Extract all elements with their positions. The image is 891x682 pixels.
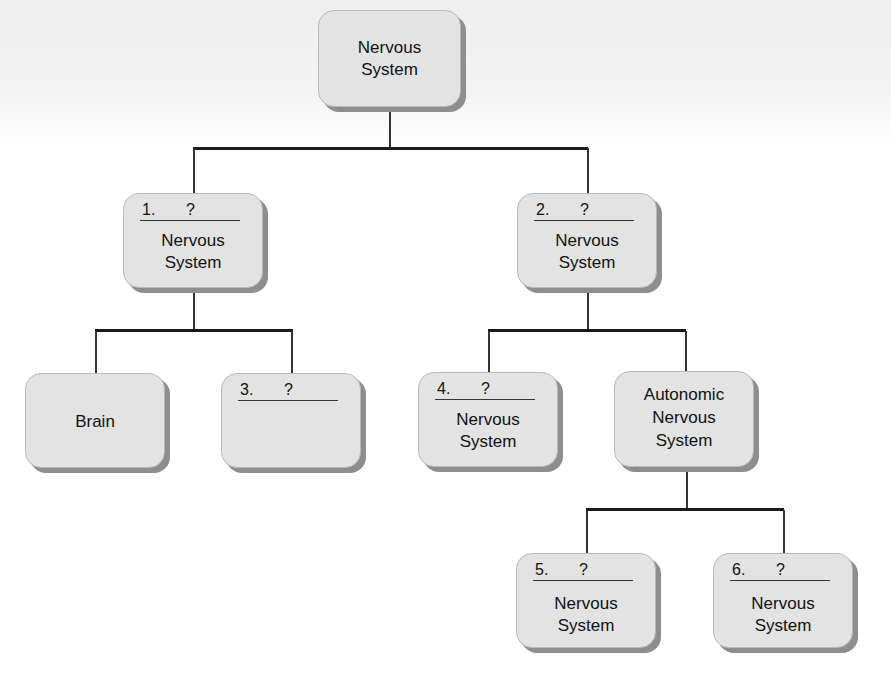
node-label: Brain [26, 411, 164, 432]
connector-to-autonomic [685, 331, 687, 372]
node-4: 4.? Nervous System [418, 372, 558, 467]
connector-level1-bar [193, 147, 588, 150]
connector-to-brain [95, 331, 97, 374]
connector-node1-down [193, 290, 195, 331]
node-3: 3.? [221, 373, 361, 468]
blank-answer-line: 1.? [140, 200, 240, 221]
node-2: 2.? Nervous System [517, 193, 657, 288]
node-1: 1.? Nervous System [123, 193, 263, 288]
blank-answer-line: 2.? [534, 200, 634, 221]
question-mark: ? [776, 561, 785, 578]
node-label: Nervous [319, 37, 460, 58]
connector-to-node6 [783, 510, 785, 553]
question-mark: ? [580, 201, 589, 218]
node-label: Nervous [518, 230, 656, 251]
question-mark: ? [284, 381, 293, 398]
connector-to-node2 [587, 148, 589, 194]
node-label: System [714, 615, 852, 636]
connector-level2-left-bar [95, 329, 293, 332]
node-brain: Brain [25, 373, 165, 468]
question-number: 1. [140, 200, 186, 220]
question-number: 2. [534, 200, 580, 220]
node-label: System [419, 431, 557, 452]
connector-level2-right-bar [488, 329, 686, 332]
node-label: Autonomic [615, 384, 753, 405]
blank-answer-line: 6.? [730, 560, 830, 581]
blank-answer-line: 5.? [533, 560, 633, 581]
node-label: Nervous [615, 407, 753, 428]
connector-root-down [389, 107, 391, 149]
node-label: System [124, 252, 262, 273]
node-label: Nervous [419, 409, 557, 430]
node-label: Nervous [517, 593, 655, 614]
node-autonomic-nervous-system: Autonomic Nervous System [614, 371, 754, 467]
connector-to-node5 [586, 510, 588, 553]
question-number: 4. [435, 379, 481, 399]
node-root-nervous-system: Nervous System [318, 10, 461, 107]
node-label: Nervous [714, 593, 852, 614]
connector-node2-down [587, 290, 589, 331]
question-mark: ? [579, 561, 588, 578]
node-label: Nervous [124, 230, 262, 251]
connector-to-node1 [193, 148, 195, 194]
question-mark: ? [481, 380, 490, 397]
question-number: 6. [730, 560, 776, 580]
blank-answer-line: 3.? [238, 380, 338, 401]
node-label: System [319, 59, 460, 80]
connector-level3-bar [586, 508, 784, 511]
question-number: 3. [238, 380, 284, 400]
question-number: 5. [533, 560, 579, 580]
blank-answer-line: 4.? [435, 379, 535, 400]
connector-to-node3 [291, 331, 293, 374]
connector-autonomic-down [686, 467, 688, 510]
node-6: 6.? Nervous System [713, 553, 853, 648]
node-label: System [615, 430, 753, 451]
node-label: System [518, 252, 656, 273]
connector-to-node4 [488, 331, 490, 373]
node-label: System [517, 615, 655, 636]
node-5: 5.? Nervous System [516, 553, 656, 648]
question-mark: ? [186, 201, 195, 218]
